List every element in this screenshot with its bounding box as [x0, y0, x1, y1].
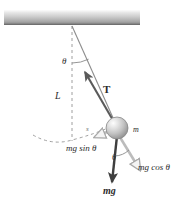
mass-label: m [133, 126, 139, 134]
length-label: L [55, 91, 61, 101]
mg-sin-theta-label: mg sin θ [66, 144, 96, 153]
ceiling-support-bar [4, 10, 140, 25]
pendulum-string [72, 26, 118, 129]
tension-vector [85, 72, 114, 122]
mg-cos-theta-label: mg cos θ [138, 163, 170, 172]
theta-bob-label: θ [112, 154, 116, 162]
tension-label: T [103, 84, 110, 95]
diagram-canvas [0, 0, 182, 207]
theta-top-arc [72, 59, 89, 63]
mg-cos-theta-vector [118, 134, 140, 170]
arc-length-label: s [86, 126, 89, 133]
pendulum-diagram: θ L T s m mg sin θ θ mg cos θ mg [0, 0, 182, 207]
weight-label: mg [103, 186, 116, 196]
pendulum-bob [106, 117, 128, 139]
theta-top-label: θ [62, 57, 66, 66]
